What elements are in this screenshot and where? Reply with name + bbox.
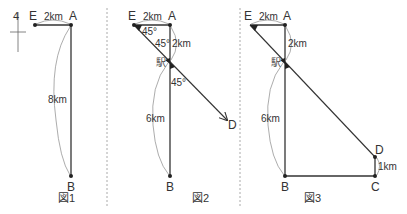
distance-EA: 2km [44, 11, 63, 22]
distance-A-station: 2km [288, 38, 307, 49]
distance-EA: 2km [259, 11, 278, 22]
point-E [33, 23, 37, 27]
point-B [168, 174, 172, 178]
label-D: D [375, 143, 384, 157]
distance-CD: 1km [378, 161, 397, 172]
label-E: E [29, 9, 37, 23]
angle-mark-E [250, 25, 258, 31]
point-B [283, 174, 287, 178]
angle-at-station-upper: 45° [155, 38, 170, 49]
caption-fig1: 図1 [58, 192, 75, 204]
caption-fig3: 図3 [304, 192, 321, 204]
station-label: 駅 [156, 57, 166, 68]
station-label: 駅 [271, 57, 281, 68]
figure-1: E A B 2km 8km 図1 [29, 9, 77, 204]
angle-at-station-lower: 45° [171, 77, 186, 88]
path-E-to-D [250, 25, 375, 157]
angle-mark-station-lower [285, 62, 290, 69]
label-C: C [371, 180, 380, 194]
angle-at-E: 45° [142, 26, 157, 37]
label-B: B [166, 180, 174, 194]
north-marker-icon: 4 [10, 10, 26, 52]
caption-fig2: 図2 [192, 192, 209, 204]
label-A: A [69, 9, 77, 23]
figure-2: E A B D 2km 2km 6km 45° 45° 45° 駅 図2 [128, 9, 237, 204]
point-A [283, 23, 287, 27]
label-E: E [244, 9, 252, 23]
label-B: B [281, 180, 289, 194]
point-C [373, 174, 377, 178]
label-A: A [168, 9, 176, 23]
label-D: D [228, 118, 237, 132]
point-B [69, 174, 73, 178]
distance-station-B: 6km [261, 113, 280, 124]
diagram-canvas: 4 E A B 2km 8km 図1 E A B D 2km 2km [0, 0, 407, 214]
label-A: A [283, 9, 291, 23]
label-E: E [128, 9, 136, 23]
point-A [168, 23, 172, 27]
point-A [69, 23, 73, 27]
point-E [132, 23, 136, 27]
distance-EA: 2km [143, 11, 162, 22]
north-glyph: 4 [13, 10, 19, 22]
figure-3: E A B C D 2km 2km 6km 1km 駅 図3 [244, 9, 397, 204]
distance-A-station: 2km [172, 38, 191, 49]
distance-station-B: 6km [146, 113, 165, 124]
distance-AB: 8km [48, 94, 67, 105]
